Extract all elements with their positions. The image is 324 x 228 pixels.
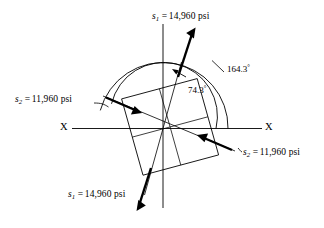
label-stress-s1-bottom: s1=14,960 psi	[68, 190, 125, 201]
label-angle-outer: 164.3°	[227, 64, 250, 74]
label-stress-s2-right: s2=11,960 psi	[243, 148, 300, 159]
equals-s2-right: =	[250, 147, 259, 157]
unit-s1-bottom: psi	[114, 189, 125, 199]
angle-leader-outer	[212, 61, 224, 73]
value-s1-bottom: 14,960	[85, 189, 112, 199]
value-s2-right: 11,960	[260, 147, 286, 157]
unit-s1-top: psi	[198, 11, 209, 21]
stress-diagram-canvas	[0, 0, 324, 228]
axis-label-x-left: X	[60, 122, 68, 133]
axis-label-x-right: X	[265, 122, 273, 133]
value-s2-left: 11,960	[32, 94, 58, 104]
label-angle-inner: 74.3°	[188, 85, 206, 95]
value-angle-inner: 74.3	[188, 85, 204, 95]
unit-s2-right: psi	[289, 147, 300, 157]
label-stress-s2-left: s2=11,960 psi	[15, 95, 72, 106]
value-s1-top: 14,960	[169, 11, 196, 21]
leader-line-s2-right	[238, 148, 242, 152]
stress-arrow-s2-left	[106, 98, 142, 115]
label-stress-s1-top: s1=14,960 psi	[152, 12, 209, 23]
equals-s1-bottom: =	[75, 189, 84, 199]
equals-s2-left: =	[22, 94, 31, 104]
stress-element-figure: s1=14,960 psi s2=11,960 psi s2=11,960 ps…	[0, 0, 324, 228]
degree-sign-outer: °	[247, 63, 250, 70]
unit-s2-left: psi	[61, 94, 72, 104]
value-angle-outer: 164.3	[227, 64, 247, 74]
stress-arrow-s2-right	[197, 134, 232, 151]
stress-arrow-s1-bottom	[137, 168, 152, 211]
degree-sign-inner: °	[204, 84, 207, 91]
equals-s1-top: =	[159, 11, 168, 21]
